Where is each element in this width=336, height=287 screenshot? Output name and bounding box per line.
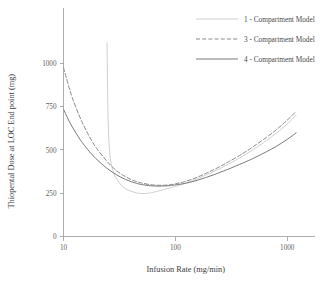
y-tick-label: 500 xyxy=(46,147,57,155)
y-tick-label: 0 xyxy=(53,233,57,241)
data-curves xyxy=(64,43,297,194)
chart-canvas: 02505007501000 101001000 1 - Compartment… xyxy=(0,0,336,287)
x-axis-title: Infusion Rate (mg/min) xyxy=(147,265,226,274)
legend-label-1: 1 - Compartment Model xyxy=(244,15,315,24)
y-tick-label: 1000 xyxy=(42,60,57,68)
curve-series-2 xyxy=(64,68,297,186)
y-tick-label: 250 xyxy=(46,190,57,198)
y-axis-ticks: 02505007501000 xyxy=(42,60,63,241)
x-tick-label: 1000 xyxy=(280,244,295,252)
curve-series-1 xyxy=(107,43,296,194)
x-tick-label: 100 xyxy=(170,244,181,252)
chart-figure: 02505007501000 101001000 1 - Compartment… xyxy=(0,0,336,287)
curve-series-3 xyxy=(64,109,297,186)
legend-label-2: 3 - Compartment Model xyxy=(244,35,315,44)
x-tick-label: 10 xyxy=(60,244,68,252)
legend-label-3: 4 - Compartment Model xyxy=(244,55,315,64)
x-axis-ticks: 101001000 xyxy=(60,237,295,252)
y-axis-title: Thiopental Dose at LOC End point (mg) xyxy=(7,74,16,209)
y-tick-label: 750 xyxy=(46,103,57,111)
chart-legend: 1 - Compartment Model3 - Compartment Mod… xyxy=(196,15,315,64)
